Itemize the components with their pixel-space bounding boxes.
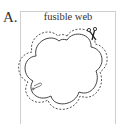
scissors-icon xyxy=(87,27,96,40)
safety-pin-icon xyxy=(32,83,42,90)
flower-diagram xyxy=(0,0,125,124)
dashed-cut-line xyxy=(19,29,108,109)
flower-outline xyxy=(25,34,102,104)
